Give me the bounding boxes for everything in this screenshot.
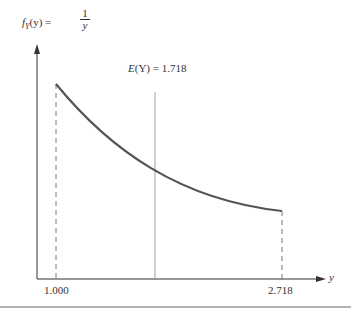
x-axis-arrow-icon [316,276,326,282]
x-axis-label: y [329,271,334,283]
fraction-denominator: y [80,19,90,31]
mean-label: E(Y) = 1.718 [128,62,186,74]
density-curve [56,84,282,211]
chart-canvas [0,0,351,316]
y-label-rest: (y) = [30,16,52,28]
mean-label-rest: (Y) = 1.718 [135,62,187,74]
fraction-numerator: 1 [80,8,90,19]
y-axis-arrow-icon [34,44,40,54]
y-axis-label: fY(y) = [22,16,51,31]
mean-label-e: E [128,62,135,74]
tick-label-left: 1.000 [44,284,69,296]
fraction: 1 y [80,8,90,31]
tick-label-right: 2.718 [268,284,293,296]
